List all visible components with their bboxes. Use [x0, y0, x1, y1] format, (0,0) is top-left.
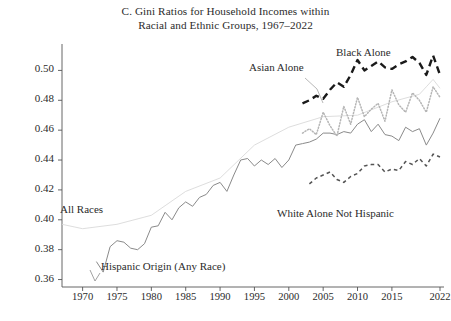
annotation-black: Black Alone: [336, 46, 391, 58]
annotation-white-nh: White Alone Not Hispanic: [277, 207, 394, 219]
y-axis-tick-label: 0.40: [20, 212, 54, 224]
y-axis-tick-label: 0.44: [20, 152, 54, 164]
x-axis-tick-label: 2015: [372, 291, 412, 302]
y-axis-tick-label: 0.38: [20, 242, 54, 254]
figure-container: C. Gini Ratios for Household Incomes wit…: [0, 0, 451, 321]
series-line: [96, 118, 440, 272]
annotation-all-races: All Races: [60, 203, 103, 215]
axes: [58, 44, 444, 291]
y-axis-tick-label: 0.36: [20, 272, 54, 284]
hispanic-leader-line: [90, 270, 100, 281]
series-line: [303, 56, 441, 104]
y-axis-tick-label: 0.46: [20, 122, 54, 134]
x-axis-tick-label: 2022: [420, 291, 451, 302]
series-line: [309, 154, 440, 184]
y-axis-tick-label: 0.42: [20, 182, 54, 194]
series-lines: [62, 56, 440, 273]
annotation-asian: Asian Alone: [249, 61, 304, 73]
asian-leader-line: [305, 78, 323, 103]
y-axis-tick-label: 0.50: [20, 62, 54, 74]
y-axis-tick-label: 0.48: [20, 92, 54, 104]
annotation-leader-lines: [90, 78, 323, 281]
annotation-hispanic: Hispanic Origin (Any Race): [101, 260, 225, 272]
